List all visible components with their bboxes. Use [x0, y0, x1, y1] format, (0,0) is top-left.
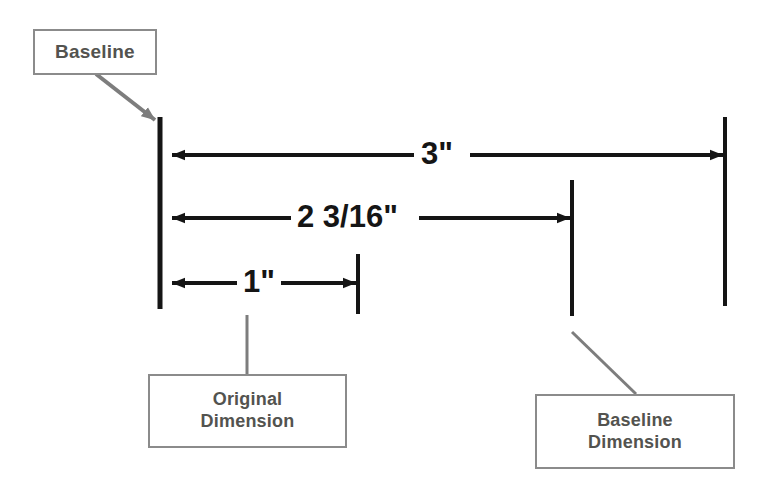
callout-baseline-dimension-line1: Baseline — [597, 410, 673, 432]
callout-baseline: Baseline — [33, 29, 157, 75]
callout-baseline-dimension-line2: Dimension — [588, 432, 682, 454]
leader-lines — [96, 74, 636, 394]
callout-original-dimension-line1: Original — [213, 389, 283, 411]
callout-original-dimension-line2: Dimension — [201, 411, 295, 433]
callout-original-dimension: Original Dimension — [148, 374, 347, 448]
callout-baseline-dimension: Baseline Dimension — [535, 394, 735, 469]
dimension-label-overall: 3" — [415, 138, 459, 169]
callout-baseline-label: Baseline — [55, 40, 135, 63]
leader-line-baseline-callout — [96, 74, 155, 120]
dimension-label-intermediate: 2 3/16" — [291, 201, 404, 232]
leader-line-baseline-dimension-callout — [572, 332, 636, 394]
baseline-dimensioning-diagram: 3" 2 3/16" 1" Baseline Original Dimensio… — [0, 0, 758, 492]
dimension-label-first: 1" — [237, 266, 281, 297]
